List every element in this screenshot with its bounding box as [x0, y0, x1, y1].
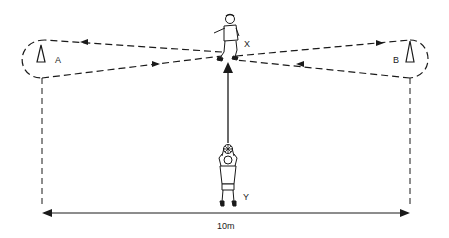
distance-label: 10m — [217, 222, 235, 231]
player-y-figure — [219, 145, 237, 207]
cone-b-icon — [406, 41, 414, 62]
arrow-x-to-b-icon — [376, 40, 384, 46]
arrow-x-to-a-icon — [80, 39, 88, 45]
measure-arrow-left-icon — [42, 209, 52, 217]
player-x-figure — [214, 15, 239, 62]
cone-b-label: B — [393, 56, 399, 65]
cone-a-icon — [37, 45, 45, 62]
measure-arrow-right-icon — [400, 209, 410, 217]
path-x-b-loop — [236, 40, 428, 78]
path-x-a-loop — [22, 40, 222, 78]
player-x-label: X — [244, 40, 250, 49]
arrow-a-to-x-icon — [152, 61, 160, 67]
drill-diagram — [0, 0, 449, 238]
player-y-label: Y — [243, 193, 249, 202]
throw-arrow-icon — [223, 62, 233, 73]
cone-a-label: A — [55, 56, 61, 65]
